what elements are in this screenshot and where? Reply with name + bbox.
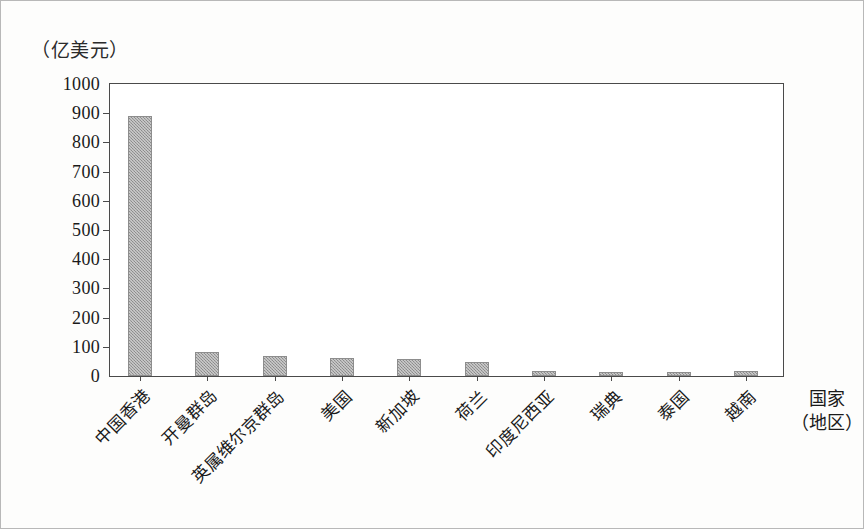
bar — [263, 356, 287, 376]
x-axis-category-label: 瑞典 — [584, 383, 626, 425]
x-axis-tick-mark — [477, 376, 478, 381]
x-axis-tick-mark — [275, 376, 276, 381]
x-axis-category-label: 越南 — [718, 383, 760, 425]
x-axis-category-label: 新加坡 — [369, 383, 424, 438]
x-axis-title: 国家 （地区） — [791, 387, 863, 436]
y-axis-tick-mark — [103, 347, 110, 348]
y-axis-unit-label: （亿美元） — [31, 35, 129, 62]
plot-area: 01002003004005006007008009001000 — [109, 83, 784, 377]
y-axis-tick-label: 600 — [72, 190, 100, 211]
y-axis-tick-label: 900 — [72, 103, 100, 124]
y-axis-tick-mark — [103, 201, 110, 202]
chart-figure: （亿美元） 01002003004005006007008009001000 中… — [0, 0, 864, 529]
bar — [330, 358, 354, 376]
bar — [195, 352, 219, 376]
y-axis-tick-mark — [103, 288, 110, 289]
y-axis-tick-label: 800 — [72, 132, 100, 153]
y-axis-tick-mark — [103, 259, 110, 260]
x-axis-title-line2: （地区） — [791, 411, 863, 435]
y-axis-tick-label: 400 — [72, 249, 100, 270]
y-axis-tick-mark — [103, 172, 110, 173]
x-axis-category-label: 美国 — [314, 383, 356, 425]
x-axis-tick-mark — [342, 376, 343, 381]
y-axis-tick-label: 200 — [72, 307, 100, 328]
x-axis-category-label: 泰国 — [651, 383, 693, 425]
x-axis-tick-mark — [409, 376, 410, 381]
bar — [128, 116, 152, 376]
x-axis-tick-mark — [207, 376, 208, 381]
x-axis-tick-mark — [611, 376, 612, 381]
x-axis-category-label: 荷兰 — [449, 383, 491, 425]
x-axis-tick-mark — [679, 376, 680, 381]
y-axis-tick-label: 0 — [91, 366, 100, 387]
y-axis-tick-mark — [103, 142, 110, 143]
bar — [397, 359, 421, 376]
y-axis-tick-label: 700 — [72, 161, 100, 182]
y-axis-tick-mark — [103, 113, 110, 114]
y-axis-tick-label: 1000 — [63, 74, 100, 95]
x-axis-category-label: 印度尼西亚 — [479, 383, 559, 463]
x-axis-title-line1: 国家 — [791, 387, 863, 411]
y-axis-tick-mark — [103, 230, 110, 231]
bar — [465, 362, 489, 376]
y-axis-tick-label: 100 — [72, 336, 100, 357]
x-axis-category-label: 中国香港 — [88, 383, 155, 450]
x-axis-category-label: 开曼群岛 — [155, 383, 222, 450]
x-axis-tick-mark — [140, 376, 141, 381]
y-axis-tick-label: 500 — [72, 220, 100, 241]
x-axis-tick-mark — [746, 376, 747, 381]
x-axis-tick-mark — [544, 376, 545, 381]
y-axis-tick-mark — [103, 318, 110, 319]
y-axis-tick-label: 300 — [72, 278, 100, 299]
